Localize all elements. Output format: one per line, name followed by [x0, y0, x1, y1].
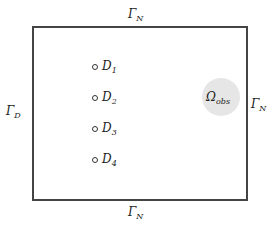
source-label-4: D4 — [102, 153, 117, 170]
source-symbol: D — [102, 90, 112, 104]
boundary-label-left: ΓD — [6, 105, 21, 122]
diagram-canvas: ΓN ΓN ΓD ΓN Ωobs D1 D2 D3 D4 — [0, 0, 280, 227]
source-point-2 — [92, 95, 98, 101]
source-sub: 2 — [112, 97, 117, 106]
source-symbol: D — [102, 152, 112, 166]
boundary-label-bottom: ΓN — [128, 206, 143, 223]
source-label-2: D2 — [102, 91, 117, 108]
boundary-label-right: ΓN — [251, 98, 266, 115]
omega-sub: obs — [216, 97, 230, 106]
observation-region-label: Ωobs — [206, 91, 230, 108]
source-sub: 3 — [112, 128, 117, 137]
source-symbol: D — [102, 59, 112, 73]
omega-symbol: Ω — [206, 90, 216, 104]
boundary-sub: D — [14, 111, 20, 120]
source-point-1 — [92, 64, 98, 70]
source-sub: 1 — [112, 66, 117, 75]
source-point-3 — [92, 126, 98, 132]
boundary-sub: N — [136, 212, 143, 221]
boundary-sub: N — [136, 14, 143, 23]
source-label-1: D1 — [102, 60, 117, 77]
source-label-3: D3 — [102, 122, 117, 139]
source-symbol: D — [102, 121, 112, 135]
boundary-sub: N — [259, 104, 266, 113]
source-point-4 — [92, 157, 98, 163]
source-sub: 4 — [112, 159, 117, 168]
boundary-label-top: ΓN — [128, 8, 143, 25]
